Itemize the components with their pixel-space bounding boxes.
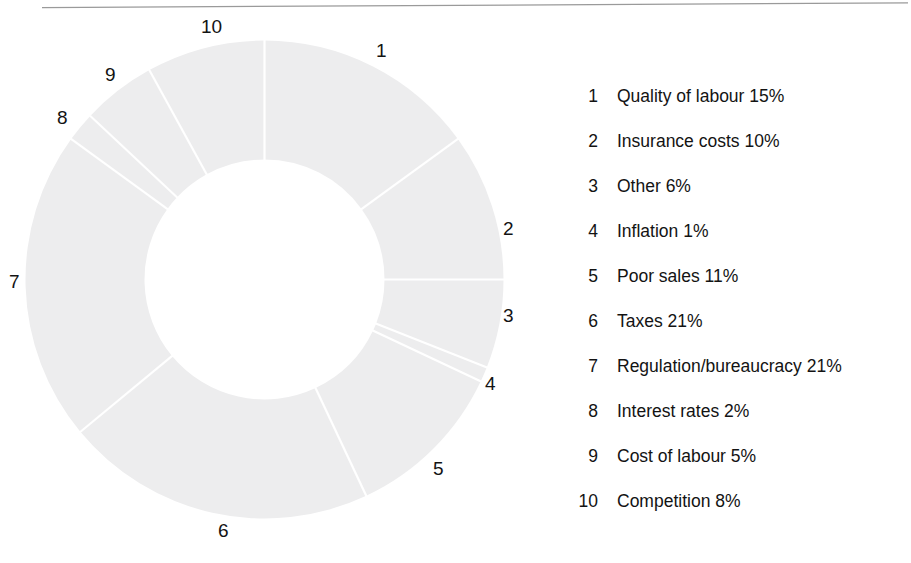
- donut-chart: 12345678910: [0, 0, 560, 563]
- legend-item-number: 8: [560, 403, 598, 421]
- legend-item-9[interactable]: 9Cost of labour 5%: [560, 448, 911, 493]
- donut-callout-7: 7: [9, 272, 20, 291]
- legend-item-label: Taxes 21%: [598, 313, 703, 331]
- legend-item-number: 6: [560, 313, 598, 331]
- donut-callout-10: 10: [201, 17, 222, 36]
- legend-item-7[interactable]: 7Regulation/bureaucracy 21%: [560, 358, 911, 403]
- legend-item-3[interactable]: 3Other 6%: [560, 178, 911, 223]
- donut-callout-1: 1: [376, 41, 387, 60]
- legend-item-number: 3: [560, 178, 598, 196]
- legend-item-label: Cost of labour 5%: [598, 448, 756, 466]
- donut-callout-5: 5: [433, 459, 444, 478]
- legend-item-2[interactable]: 2Insurance costs 10%: [560, 133, 911, 178]
- donut-callout-9: 9: [105, 65, 116, 84]
- legend-item-10[interactable]: 10Competition 8%: [560, 493, 911, 538]
- legend-item-label: Poor sales 11%: [598, 268, 738, 286]
- legend-item-label: Inflation 1%: [598, 223, 708, 241]
- legend-item-label: Quality of labour 15%: [598, 88, 784, 106]
- legend-item-label: Insurance costs 10%: [598, 133, 779, 151]
- legend-item-number: 4: [560, 223, 598, 241]
- legend-item-number: 10: [560, 493, 598, 511]
- chart-page: 12345678910 1Quality of labour 15%2Insur…: [0, 0, 911, 563]
- legend-item-label: Interest rates 2%: [598, 403, 749, 421]
- legend-item-number: 1: [560, 88, 598, 106]
- donut-callout-3: 3: [503, 306, 514, 325]
- donut-callout-2: 2: [503, 219, 514, 238]
- legend-item-label: Regulation/bureaucracy 21%: [598, 358, 842, 376]
- donut-chart-svg: [0, 0, 560, 563]
- donut-callout-6: 6: [218, 521, 229, 540]
- legend-item-label: Other 6%: [598, 178, 691, 196]
- legend-item-1[interactable]: 1Quality of labour 15%: [560, 88, 911, 133]
- chart-legend: 1Quality of labour 15%2Insurance costs 1…: [560, 88, 911, 538]
- legend-item-number: 9: [560, 448, 598, 466]
- legend-item-8[interactable]: 8Interest rates 2%: [560, 403, 911, 448]
- donut-callout-8: 8: [57, 108, 68, 127]
- legend-item-number: 5: [560, 268, 598, 286]
- legend-item-number: 7: [560, 358, 598, 376]
- legend-item-number: 2: [560, 133, 598, 151]
- legend-item-5[interactable]: 5Poor sales 11%: [560, 268, 911, 313]
- legend-item-4[interactable]: 4Inflation 1%: [560, 223, 911, 268]
- donut-callout-4: 4: [485, 374, 496, 393]
- legend-item-label: Competition 8%: [598, 493, 741, 511]
- legend-item-6[interactable]: 6Taxes 21%: [560, 313, 911, 358]
